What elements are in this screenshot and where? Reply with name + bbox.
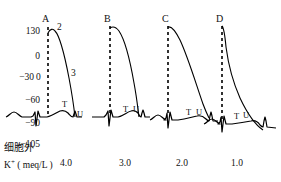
y-tick-ecg-zero: 0 [36, 73, 44, 83]
panel-c-t-wave-label: T [186, 108, 191, 117]
panel-c-action-potential [168, 27, 209, 118]
potassium-superscript: + [11, 158, 15, 166]
potassium-units: ( meq/L ) [17, 160, 53, 170]
panel-d-ecg-trace [204, 116, 276, 132]
panel-c-u-wave-label: U [196, 108, 202, 117]
phase-3-label: 3 [71, 69, 76, 79]
panel-b-group [92, 26, 150, 126]
potassium-caption: K+ ( meq/L ) [4, 159, 53, 171]
panel-d-t-wave-label: T [234, 112, 239, 121]
phase-2-label: 2 [57, 23, 62, 33]
panel-c-group [150, 26, 218, 128]
k-value-panel-a: 4.0 [60, 159, 72, 169]
k-value-panel-d: 1.0 [231, 159, 243, 169]
potassium-symbol: K [4, 160, 11, 170]
y-tick-minus60: −60 [8, 96, 40, 106]
ecg-action-potential-figure: A B C D 130 0 −30 0 −60 −90 −105 2 3 T U… [0, 0, 281, 182]
panel-letter-d: D [216, 14, 223, 24]
y-tick-minus30: −30 [4, 73, 34, 83]
panel-letter-b: B [104, 14, 111, 24]
y-tick-130: 130 [8, 27, 40, 37]
panel-b-t-wave-label: T [123, 105, 128, 114]
panel-b-u-wave-label: U [133, 105, 139, 114]
panel-a-u-wave-label: U [77, 110, 83, 119]
panel-a-t-wave-label: T [62, 100, 67, 109]
panel-letter-c: C [162, 14, 169, 24]
y-tick-minus90: −90 [8, 119, 40, 129]
panel-d-u-wave-label: U [243, 111, 249, 120]
panel-b-ecg-trace [92, 110, 150, 126]
k-value-panel-b: 3.0 [119, 159, 131, 169]
k-value-panel-c: 2.0 [176, 159, 188, 169]
panel-d-group [204, 26, 276, 132]
y-tick-0: 0 [8, 52, 40, 62]
panel-letter-a: A [42, 14, 49, 24]
waveform-canvas [0, 0, 281, 182]
extracellular-label-cn: 细胞外 [4, 143, 34, 153]
